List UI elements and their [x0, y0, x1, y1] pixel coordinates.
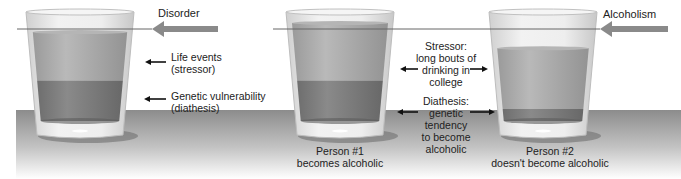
person1-caption-line-1: Person #1 [290, 145, 390, 157]
person1-caption-line-2: becomes alcoholic [290, 157, 390, 169]
glass-base-highlight [535, 130, 551, 133]
liquid-bottom [301, 118, 380, 124]
diathesis-line-2: genetic [414, 107, 478, 119]
alcoholism-arrow-icon [600, 21, 668, 37]
diathesis-line-5: alcoholic [414, 143, 478, 155]
glass-rim [489, 9, 597, 15]
liquid-bottom [41, 118, 120, 124]
stressor-pointer-arrow-icon [145, 59, 166, 65]
glass-base-highlight [72, 130, 88, 133]
stressor-liquid-layer [292, 23, 388, 81]
person2-caption-line-1: Person #2 [480, 145, 620, 157]
glass-rim [286, 9, 394, 15]
alcoholism-label: Alcoholism [603, 8, 656, 20]
diathesis-pointer-arrow-icon [144, 96, 166, 102]
liquid-surface [292, 21, 388, 25]
stressor-line-4: college [414, 76, 478, 88]
stressor-liquid-layer [497, 48, 589, 109]
glass-rim [26, 9, 134, 15]
liquid-bottom [504, 118, 583, 124]
person2-caption: Person #2 doesn't become alcoholic [480, 145, 620, 169]
diathesis-liquid-layer [297, 81, 383, 121]
stressor-line-3: drinking in [414, 64, 478, 76]
genetic-vulnerability-line-1: Genetic vulnerability [171, 90, 266, 102]
liquid-surface [497, 46, 589, 50]
liquid-surface [33, 30, 127, 34]
diathesis-line-4: to become [414, 131, 478, 143]
diathesis-label: Diathesis: genetic tendency to become al… [414, 95, 478, 155]
glass-base-highlight [332, 130, 348, 133]
diathesis-line-3: tendency [414, 119, 478, 131]
life-events-label: Life events (stressor) [171, 51, 222, 75]
genetic-vulnerability-label: Genetic vulnerability (diathesis) [171, 90, 266, 114]
stressor-line-2: long bouts of [414, 52, 478, 64]
stressor-label: Stressor: long bouts of drinking in coll… [414, 40, 478, 88]
person1-caption: Person #1 becomes alcoholic [290, 145, 390, 169]
genetic-vulnerability-line-2: (diathesis) [171, 102, 266, 114]
stressor-line-1: Stressor: [414, 40, 478, 52]
person2-caption-line-2: doesn't become alcoholic [480, 157, 620, 169]
disorder-label: Disorder [158, 7, 200, 19]
diathesis-liquid-layer [37, 81, 123, 121]
life-events-line-2: (stressor) [171, 63, 222, 75]
stressor-liquid-layer [33, 32, 127, 80]
disorder-arrow-icon [152, 21, 218, 37]
life-events-line-1: Life events [171, 51, 222, 63]
diathesis-line-1: Diathesis: [414, 95, 478, 107]
